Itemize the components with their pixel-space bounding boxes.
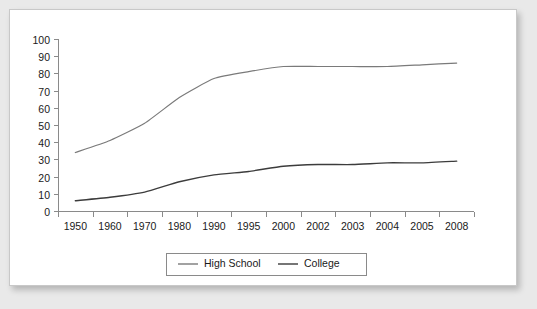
y-axis-tick-label: 100 xyxy=(32,34,50,46)
y-axis-tick-label: 80 xyxy=(38,68,50,80)
series-line-high-school xyxy=(75,63,456,152)
y-axis-tick-label: 0 xyxy=(44,206,50,218)
y-axis-tick-label: 10 xyxy=(38,189,50,201)
y-axis-tick-label: 60 xyxy=(38,103,50,115)
x-axis-tick-label: 2008 xyxy=(445,220,469,232)
series-line-college xyxy=(75,161,456,201)
page-background: 0102030405060708090100 19501960197019801… xyxy=(0,0,537,309)
chart-legend[interactable]: High SchoolCollege xyxy=(167,254,367,276)
x-axis-tick-label: 1970 xyxy=(133,220,157,232)
y-axis: 0102030405060708090100 xyxy=(32,34,58,218)
y-axis-tick-label: 30 xyxy=(38,154,50,166)
x-axis-tick-label: 2000 xyxy=(272,220,296,232)
y-axis-tick-label: 70 xyxy=(38,86,50,98)
x-axis-tick-label: 2004 xyxy=(376,220,400,232)
y-axis-tick-label: 40 xyxy=(38,137,50,149)
x-axis-tick-label: 1950 xyxy=(64,220,88,232)
chart-svg: 0102030405060708090100 19501960197019801… xyxy=(10,10,518,287)
legend-label-high-school[interactable]: High School xyxy=(204,257,261,269)
x-axis-tick-label: 1980 xyxy=(168,220,192,232)
line-chart: 0102030405060708090100 19501960197019801… xyxy=(10,10,518,287)
x-axis-tick-label: 2002 xyxy=(306,220,330,232)
y-axis-tick-label: 20 xyxy=(38,172,50,184)
x-axis-tick-label: 2005 xyxy=(410,220,434,232)
y-axis-tick-label: 50 xyxy=(38,120,50,132)
chart-card: 0102030405060708090100 19501960197019801… xyxy=(9,9,517,286)
x-axis-tick-label: 2003 xyxy=(341,220,365,232)
x-axis: 1950196019701980199019952000200220032004… xyxy=(58,212,475,232)
x-axis-tick-label: 1960 xyxy=(98,220,122,232)
x-axis-tick-label: 1990 xyxy=(202,220,226,232)
y-axis-tick-label: 90 xyxy=(38,51,50,63)
series-lines xyxy=(75,63,456,201)
x-axis-tick-label: 1995 xyxy=(237,220,261,232)
legend-label-college[interactable]: College xyxy=(304,257,340,269)
